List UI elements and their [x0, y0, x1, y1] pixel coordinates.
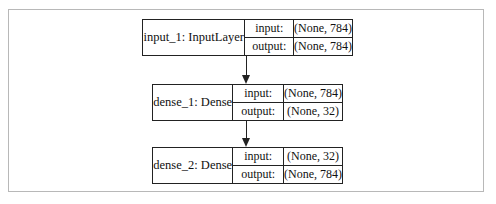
input-label: input: [233, 85, 283, 102]
input-shape: (None, 32) [284, 148, 342, 165]
output-shape: (None, 784) [284, 165, 342, 183]
node-dense-2: dense_2: Dense input: output: (None, 32)… [152, 147, 343, 184]
node-name: dense_2: Dense [153, 148, 233, 183]
output-label: output: [245, 37, 293, 55]
input-label: input: [233, 148, 283, 165]
output-label: output: [233, 102, 283, 120]
node-name: dense_1: Dense [153, 85, 233, 120]
arrowhead-icon [242, 75, 250, 84]
output-shape: (None, 32) [284, 102, 342, 120]
input-shape: (None, 784) [294, 20, 352, 37]
input-label: input: [245, 20, 293, 37]
input-shape: (None, 784) [284, 85, 342, 102]
output-label: output: [233, 165, 283, 183]
edge-input-1-to-dense-1 [246, 56, 247, 76]
node-input-1: input_1: InputLayer input: output: (None… [142, 19, 353, 56]
edge-dense-1-to-dense-2 [246, 121, 247, 139]
output-shape: (None, 784) [294, 37, 352, 55]
node-name: input_1: InputLayer [143, 20, 245, 55]
arrowhead-icon [242, 138, 250, 147]
node-dense-1: dense_1: Dense input: output: (None, 784… [152, 84, 343, 121]
